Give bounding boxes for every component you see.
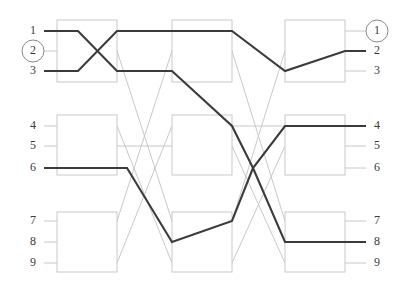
box-c2-bottom[interactable]	[172, 212, 232, 272]
left-node-label-5: 5	[30, 138, 36, 152]
left-node-label-9: 9	[30, 255, 36, 269]
box-c2-middle[interactable]	[172, 115, 232, 175]
diagram-canvas: 123456789123456789	[0, 0, 406, 290]
right-node-label-5: 5	[374, 138, 380, 152]
left-node-label-2: 2	[30, 43, 36, 57]
box-c3-top[interactable]	[285, 20, 345, 82]
left-node-label-4: 4	[30, 118, 36, 132]
switch-box-layer	[57, 20, 345, 272]
box-c1-bottom[interactable]	[57, 212, 117, 272]
box-c1-top[interactable]	[57, 20, 117, 82]
right-node-label-8: 8	[374, 234, 380, 248]
right-node-label-9: 9	[374, 255, 380, 269]
right-node-label-7: 7	[374, 213, 380, 227]
right-node-label-4: 4	[374, 118, 380, 132]
box-c1-middle[interactable]	[57, 115, 117, 175]
right-node-label-6: 6	[374, 160, 380, 174]
right-node-label-2: 2	[374, 43, 380, 57]
right-node-label-1: 1	[374, 23, 380, 37]
left-node-label-1: 1	[30, 23, 36, 37]
left-node-label-3: 3	[30, 63, 36, 77]
box-c3-middle[interactable]	[285, 115, 345, 175]
box-c2-top[interactable]	[172, 20, 232, 82]
right-node-label-3: 3	[374, 63, 380, 77]
left-node-label-8: 8	[30, 234, 36, 248]
routing-network-diagram: 123456789123456789	[0, 0, 406, 290]
left-node-label-6: 6	[30, 160, 36, 174]
left-node-label-7: 7	[30, 213, 36, 227]
